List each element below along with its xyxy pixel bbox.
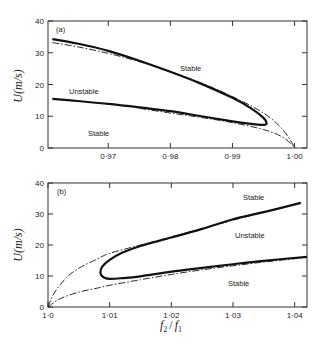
region-label-unstable: Unstable <box>69 87 99 96</box>
y-tick-label: 0 <box>40 144 45 153</box>
dash-dot-curve <box>48 203 301 307</box>
solid-curve <box>100 203 307 279</box>
panel-b-ticks: 1·01·011·021·031·04010203040 <box>35 179 307 320</box>
region-label-stable-upper: Stable <box>180 64 201 73</box>
panel-a-label: (a) <box>56 25 66 34</box>
panel-a-frame <box>48 21 307 148</box>
y-tick-label: 10 <box>35 112 44 121</box>
panel-b-label: (b) <box>57 187 67 196</box>
figure: 0·970·980·991·00010203040 (a) Stable Uns… <box>0 0 324 347</box>
x-axis-label: f2/f1 <box>160 318 182 334</box>
panel-a-y-axis-label: U(m/s) <box>11 69 25 102</box>
y-tick-label: 10 <box>35 272 44 281</box>
panel-b-chart: 1·01·011·021·031·04010203040 (b) Stable … <box>11 179 307 334</box>
y-tick-label: 20 <box>35 241 44 250</box>
panel-b-y-axis-label: U(m/s) <box>11 228 25 261</box>
region-label-stable-lower: Stable <box>88 129 109 138</box>
x-tick-label: 1·00 <box>287 152 304 161</box>
panel-a-chart: 0·970·980·991·00010203040 (a) Stable Uns… <box>11 17 307 161</box>
solid-curve <box>52 39 266 125</box>
x-tick-label: 1·03 <box>225 311 242 320</box>
y-tick-label: 40 <box>35 17 44 26</box>
dash-dot-curve <box>139 108 294 147</box>
panel-b-frame <box>48 183 307 307</box>
x-tick-label: 0·99 <box>224 152 241 161</box>
region-label-stable-lower: Stable <box>228 279 249 288</box>
x-tick-label: 1·01 <box>102 311 119 320</box>
y-tick-label: 30 <box>35 49 44 58</box>
x-tick-label: 1·04 <box>287 311 304 320</box>
y-tick-label: 40 <box>35 179 44 188</box>
panel-b-series <box>48 203 307 307</box>
x-tick-label: 0·97 <box>100 152 117 161</box>
x-tick-label: 0·98 <box>162 152 179 161</box>
region-label-stable-upper: Stable <box>243 193 264 202</box>
dash-dot-curve <box>48 257 307 307</box>
y-tick-label: 20 <box>35 81 44 90</box>
y-tick-label: 30 <box>35 210 44 219</box>
y-tick-label: 0 <box>40 303 45 312</box>
region-label-unstable: Unstable <box>235 231 265 240</box>
x-tick-label: 1·0 <box>42 311 54 320</box>
